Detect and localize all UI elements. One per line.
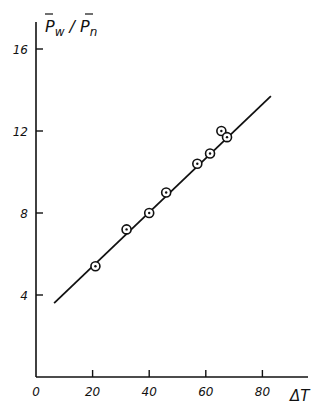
y-tick-label: 16: [13, 43, 29, 57]
axes: [36, 22, 308, 377]
y-ticks: 481216: [13, 43, 43, 303]
x-tick-label: 0: [32, 385, 40, 399]
x-ticks: 020406080: [32, 370, 270, 399]
y-tick-label: 4: [20, 289, 28, 303]
data-point: [206, 149, 215, 158]
y-axis-title: Pw / Pn: [45, 14, 97, 39]
data-point: [193, 159, 202, 168]
x-tick-label: 20: [85, 385, 101, 399]
svg-text:Pw / Pn: Pw / Pn: [45, 17, 97, 39]
x-tick-label: 80: [255, 385, 271, 399]
data-point: [91, 262, 100, 271]
fit-line: [54, 96, 271, 303]
data-point: [223, 133, 232, 142]
data-point: [122, 225, 131, 234]
x-tick-label: 60: [198, 385, 214, 399]
data-points: [91, 127, 232, 271]
x-tick-label: 40: [142, 385, 158, 399]
x-axis-title: ΔT: [289, 387, 311, 405]
data-point: [162, 188, 171, 197]
data-point: [145, 209, 154, 218]
chart: 020406080 481216 ΔT Pw / Pn: [0, 0, 327, 409]
y-tick-label: 12: [13, 125, 28, 139]
y-tick-label: 8: [20, 207, 28, 221]
